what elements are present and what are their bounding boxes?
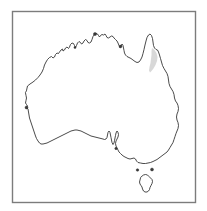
bass-strait-islet-west-icon <box>136 169 139 172</box>
australia-map-svg: Australia outline map Line-drawing outli… <box>0 0 207 211</box>
kangaroo-islet-icon <box>115 147 117 149</box>
map-figure: Australia outline map Line-drawing outli… <box>0 0 207 211</box>
top-end-islet-icon <box>74 46 76 48</box>
shark-bay-islet-icon <box>25 106 28 109</box>
gulf-islet-north-icon <box>93 32 96 35</box>
cape-york-islet-icon <box>119 45 122 48</box>
bass-strait-islet-east-icon <box>151 168 154 171</box>
